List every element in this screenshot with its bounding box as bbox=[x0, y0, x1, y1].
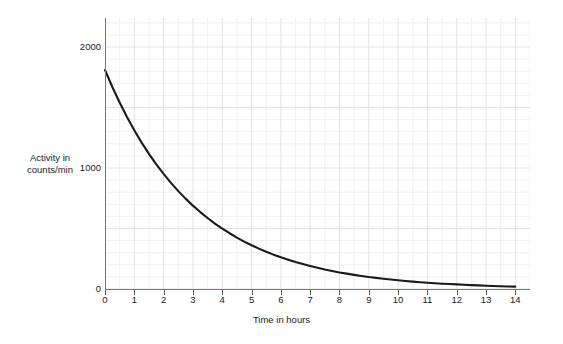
x-tick-label: 3 bbox=[180, 294, 206, 305]
x-axis-line bbox=[105, 289, 530, 290]
x-tick-label: 7 bbox=[297, 294, 323, 305]
plot-area bbox=[105, 18, 530, 289]
y-axis-title: Activity in counts/min bbox=[22, 152, 78, 175]
x-tick-label: 11 bbox=[414, 294, 440, 305]
x-tick-label: 9 bbox=[356, 294, 382, 305]
x-tick-label: 4 bbox=[209, 294, 235, 305]
x-tick-label: 5 bbox=[239, 294, 265, 305]
x-axis-title: Time in hours bbox=[0, 314, 563, 325]
y-tick-label: 0 bbox=[96, 283, 101, 294]
y-axis-title-line1: Activity in bbox=[22, 152, 78, 164]
decay-chart-figure: 01234567891011121314 010002000 Time in h… bbox=[0, 0, 563, 344]
decay-curve bbox=[105, 18, 530, 289]
y-tick-label: 1000 bbox=[80, 162, 101, 173]
x-tick-label: 6 bbox=[268, 294, 294, 305]
y-axis-line bbox=[105, 18, 106, 289]
x-tick-label: 8 bbox=[326, 294, 352, 305]
y-tick-label: 2000 bbox=[80, 41, 101, 52]
x-tick-label: 14 bbox=[502, 294, 528, 305]
x-tick-label: 2 bbox=[151, 294, 177, 305]
x-tick-label: 12 bbox=[444, 294, 470, 305]
y-axis-title-line2: counts/min bbox=[22, 164, 78, 176]
x-tick-label: 1 bbox=[121, 294, 147, 305]
x-tick-label: 0 bbox=[92, 294, 118, 305]
y-tick-label-row: 0 bbox=[0, 283, 101, 295]
x-tick-label: 13 bbox=[473, 294, 499, 305]
y-tick-label-row: 2000 bbox=[0, 41, 101, 53]
x-tick-label: 10 bbox=[385, 294, 411, 305]
